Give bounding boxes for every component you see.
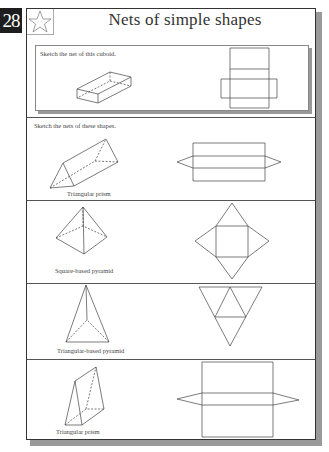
cuboid-net bbox=[221, 48, 277, 108]
triangular-pyramid-net bbox=[199, 287, 262, 346]
triangular-prism-2-drawing bbox=[65, 367, 104, 425]
triangular-prism-2-net bbox=[177, 362, 299, 437]
square-pyramid-net bbox=[195, 203, 269, 279]
triangular-prism-drawing bbox=[50, 139, 118, 188]
shape-drawings bbox=[0, 0, 329, 452]
triangular-prism-net bbox=[177, 143, 281, 181]
cuboid-drawing bbox=[77, 72, 131, 103]
triangular-pyramid-drawing bbox=[66, 285, 109, 342]
square-pyramid-drawing bbox=[56, 207, 107, 254]
